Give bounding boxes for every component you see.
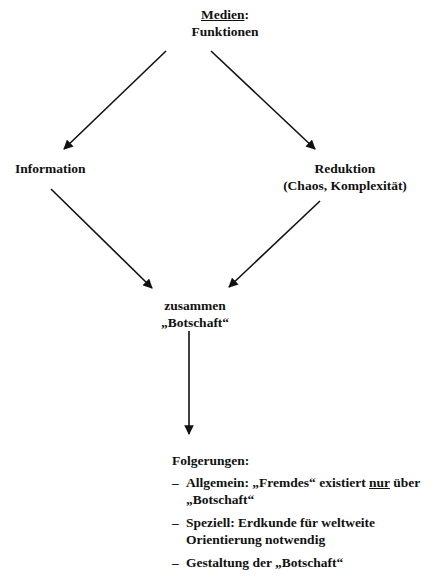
left-node-label: Information (15, 160, 86, 177)
dash-bullet: – (172, 554, 179, 571)
arrow-reduktion-to-zusammen (229, 201, 320, 287)
item-emphasis: nur (369, 475, 390, 490)
middle-node-label: zusammen (120, 297, 270, 314)
list-item: – Gestaltung der „Botschaft“ (172, 554, 422, 571)
right-node-sublabel: (Chaos, Komplexität) (270, 177, 420, 194)
middle-node: zusammen „Botschaft“ (120, 297, 270, 331)
middle-node-sublabel: „Botschaft“ (120, 314, 270, 331)
arrow-medien-to-reduktion (211, 51, 315, 149)
top-subtitle: Funktionen (150, 23, 300, 40)
arrow-information-to-zusammen (51, 189, 152, 288)
item-text-before: Allgemein: „Fremdes“ existiert (186, 475, 369, 490)
top-title-line: Medien: (150, 6, 300, 23)
item-text: Gestaltung der „Botschaft“ (186, 555, 343, 570)
arrow-medien-to-information (64, 51, 166, 149)
dash-bullet: – (172, 474, 179, 491)
list-item: – Allgemein: „Fremdes“ existiert nur übe… (172, 474, 426, 508)
conclusions-heading: Folgerungen: (172, 452, 249, 469)
top-title: Medien (201, 7, 245, 22)
dash-bullet: – (172, 514, 179, 531)
list-item: – Speziell: Erdkunde für weltweite Orien… (172, 514, 416, 548)
conclusions-list: – Allgemein: „Fremdes“ existiert nur übe… (172, 474, 422, 577)
top-title-colon: : (245, 7, 250, 22)
item-text: Speziell: Erdkunde für weltweite Orienti… (186, 515, 375, 547)
right-node-label: Reduktion (270, 160, 420, 177)
right-node: Reduktion (Chaos, Komplexität) (270, 160, 420, 194)
top-node: Medien: Funktionen (150, 6, 300, 40)
